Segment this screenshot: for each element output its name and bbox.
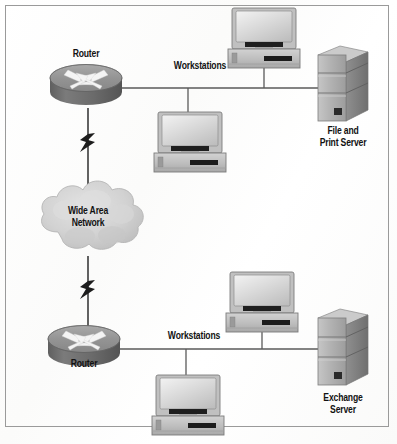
workstations-top-label: Workstations [166, 60, 235, 72]
server-top-label: File and Print Server [309, 125, 378, 148]
workstations-bottom-label: Workstations [160, 330, 229, 342]
workstation-icon [154, 112, 226, 172]
wan-cloud-label: Wide Area Network [50, 205, 126, 228]
server-bottom-label: Exchange Server [309, 392, 378, 415]
workstation-icon [152, 375, 224, 435]
server-top-icon [318, 46, 368, 121]
workstation-icon [226, 272, 298, 332]
router-top-label: Router [60, 48, 112, 60]
network-diagram-figure: Router Router Wide Area Network Workstat… [0, 0, 397, 444]
router-top-icon [50, 65, 122, 105]
router-bottom-label: Router [58, 358, 110, 370]
server-bottom-icon [318, 309, 368, 385]
workstation-icon [228, 8, 300, 68]
